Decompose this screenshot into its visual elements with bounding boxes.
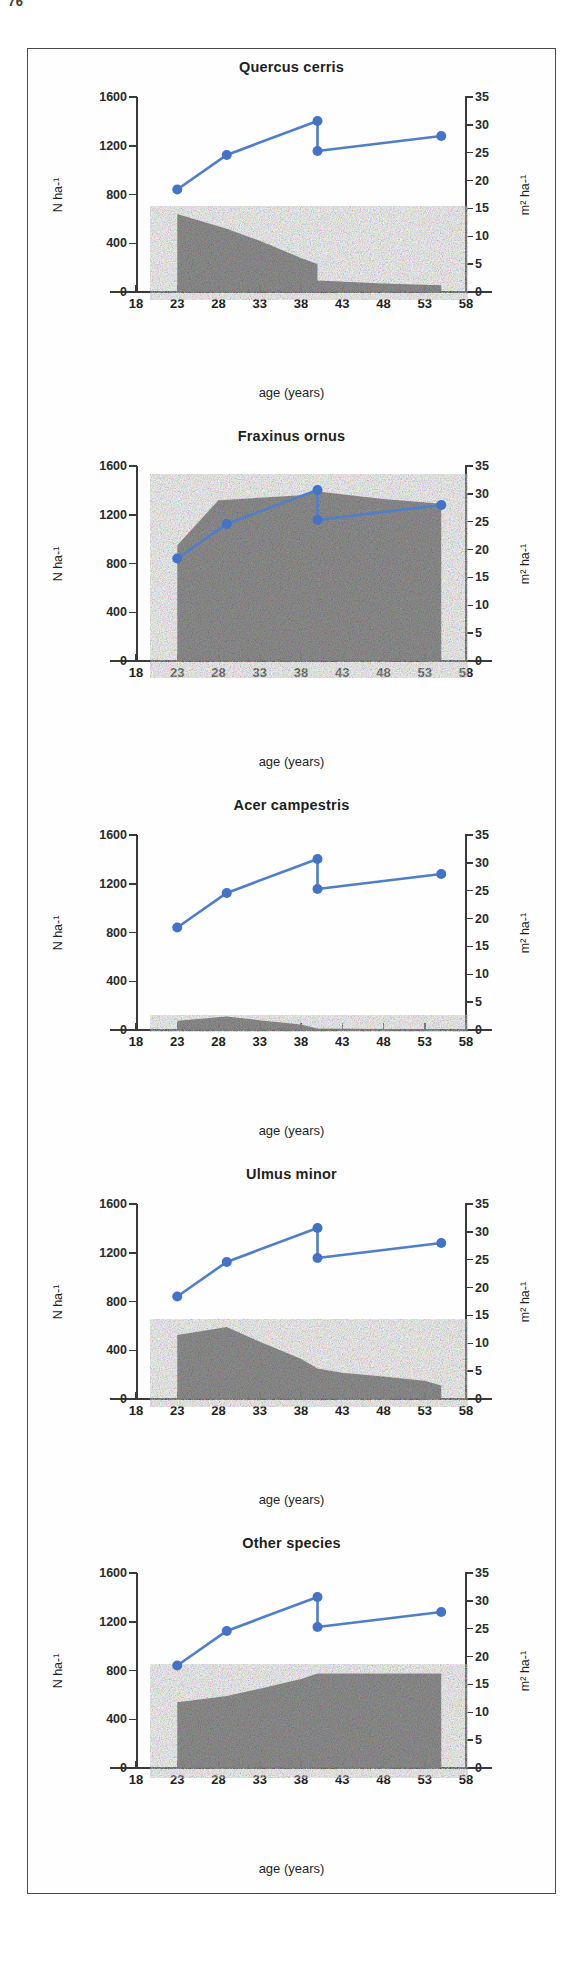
stem-density-area [177, 492, 441, 661]
y-right-tick-label: 20 [475, 174, 505, 188]
x-axis-title: age (years) [28, 754, 555, 769]
x-tick-label: 48 [376, 1034, 390, 1049]
basal-area-marker [313, 116, 323, 126]
plot-area: 0400800120016000510152025303518232833384… [28, 1561, 555, 1816]
basal-area-marker [313, 1223, 323, 1233]
y-left-tick-label: 1200 [79, 508, 127, 522]
basal-area-marker [313, 1253, 323, 1263]
y-right-tick-label: 15 [475, 939, 505, 953]
y-left-tick-label: 800 [79, 1295, 127, 1309]
y-left-tick-label: 800 [79, 926, 127, 940]
y-right-tick-label: 35 [475, 1197, 505, 1211]
y-left-tick-label: 1200 [79, 877, 127, 891]
y-left-tick-label: 400 [79, 236, 127, 250]
basal-area-line [177, 1228, 441, 1297]
y-right-tick [465, 96, 473, 98]
y-right-axis-title: m² ha-¹ [518, 544, 532, 584]
y-right-tick-label: 25 [475, 1253, 505, 1267]
y-left-tick-label: 400 [79, 1712, 127, 1726]
basal-area-marker [313, 146, 323, 156]
y-right-tick-label: 5 [475, 1733, 505, 1747]
y-right-tick [465, 493, 473, 495]
stem-density-area [177, 1017, 441, 1030]
x-tick-label: 18 [129, 296, 143, 311]
basal-area-marker [172, 1660, 182, 1670]
y-left-tick-label: 1200 [79, 1615, 127, 1629]
y-right-tick [465, 208, 473, 210]
x-tick-label: 58 [459, 1403, 473, 1418]
y-left-tick-label: 800 [79, 1664, 127, 1678]
data-series-layer [136, 1573, 466, 1768]
figure-frame: Quercus cerris04008001200160005101520253… [27, 48, 556, 1894]
y-right-tick [465, 124, 473, 126]
y-left-tick-label: 1200 [79, 1246, 127, 1260]
basal-area-marker [313, 854, 323, 864]
x-tick-label: 18 [129, 1034, 143, 1049]
y-right-tick [465, 605, 473, 607]
y-right-tick [465, 1739, 473, 1741]
basal-area-marker [436, 131, 446, 141]
y-right-tick [465, 549, 473, 551]
chart-panel: Other species040080012001600051015202530… [28, 1525, 555, 1894]
chart-panel: Ulmus minor04008001200160005101520253035… [28, 1156, 555, 1525]
x-tick-label: 33 [253, 1403, 267, 1418]
y-right-tick-label: 35 [475, 90, 505, 104]
basal-area-marker [436, 500, 446, 510]
basal-area-line [177, 1597, 441, 1666]
panel-title: Acer campestris [28, 797, 555, 813]
basal-area-marker [172, 553, 182, 563]
y-right-tick [465, 1343, 473, 1345]
panel-title: Ulmus minor [28, 1166, 555, 1182]
x-tick-label: 58 [459, 665, 473, 680]
y-right-tick [465, 1287, 473, 1289]
y-right-tick-label: 30 [475, 118, 505, 132]
y-right-axis-title: m² ha-¹ [518, 913, 532, 953]
x-tick-label: 33 [253, 665, 267, 680]
y-right-tick-label: 20 [475, 1650, 505, 1664]
stem-density-area [177, 214, 441, 292]
y-right-tick [465, 1628, 473, 1630]
x-tick-label: 23 [170, 1772, 184, 1787]
x-tick-label: 48 [376, 1403, 390, 1418]
plot-area: 0400800120016000510152025303518232833384… [28, 1192, 555, 1447]
plot-area: 0400800120016000510152025303518232833384… [28, 823, 555, 1078]
x-tick-label: 38 [294, 1403, 308, 1418]
x-axis-title: age (years) [28, 1861, 555, 1876]
y-left-tick-label: 400 [79, 974, 127, 988]
x-tick-label: 48 [376, 665, 390, 680]
y-left-axis-title: N ha-¹ [51, 547, 65, 582]
y-right-tick [465, 1684, 473, 1686]
x-tick-label: 53 [418, 296, 432, 311]
y-right-tick-label: 5 [475, 995, 505, 1009]
x-tick-label: 28 [211, 1772, 225, 1787]
y-right-tick-label: 25 [475, 1622, 505, 1636]
x-tick-label: 18 [129, 1403, 143, 1418]
x-tick-label: 53 [418, 1772, 432, 1787]
y-right-tick [465, 918, 473, 920]
x-tick-label: 28 [211, 665, 225, 680]
y-right-tick [465, 1600, 473, 1602]
basal-area-marker [313, 1622, 323, 1632]
x-tick-label: 18 [129, 1772, 143, 1787]
y-right-tick-label: 10 [475, 967, 505, 981]
x-tick-label: 28 [211, 296, 225, 311]
y-left-tick-label: 800 [79, 557, 127, 571]
y-right-axis-title: m² ha-¹ [518, 1651, 532, 1691]
y-right-tick-label: 30 [475, 487, 505, 501]
x-tick-label: 43 [335, 665, 349, 680]
basal-area-line [177, 859, 441, 928]
y-right-tick [465, 263, 473, 265]
y-right-tick-label: 25 [475, 146, 505, 160]
y-right-tick [465, 1203, 473, 1205]
x-tick-label: 48 [376, 296, 390, 311]
page-number: 76 [8, 0, 23, 9]
y-right-tick [465, 1231, 473, 1233]
y-left-tick-label: 1600 [79, 828, 127, 842]
y-right-tick-label: 30 [475, 856, 505, 870]
y-right-tick [465, 1572, 473, 1574]
y-right-tick [465, 946, 473, 948]
chart-panel: Quercus cerris04008001200160005101520253… [28, 49, 555, 418]
y-right-tick [465, 577, 473, 579]
y-right-axis-title: m² ha-¹ [518, 175, 532, 215]
y-right-tick-label: 10 [475, 598, 505, 612]
